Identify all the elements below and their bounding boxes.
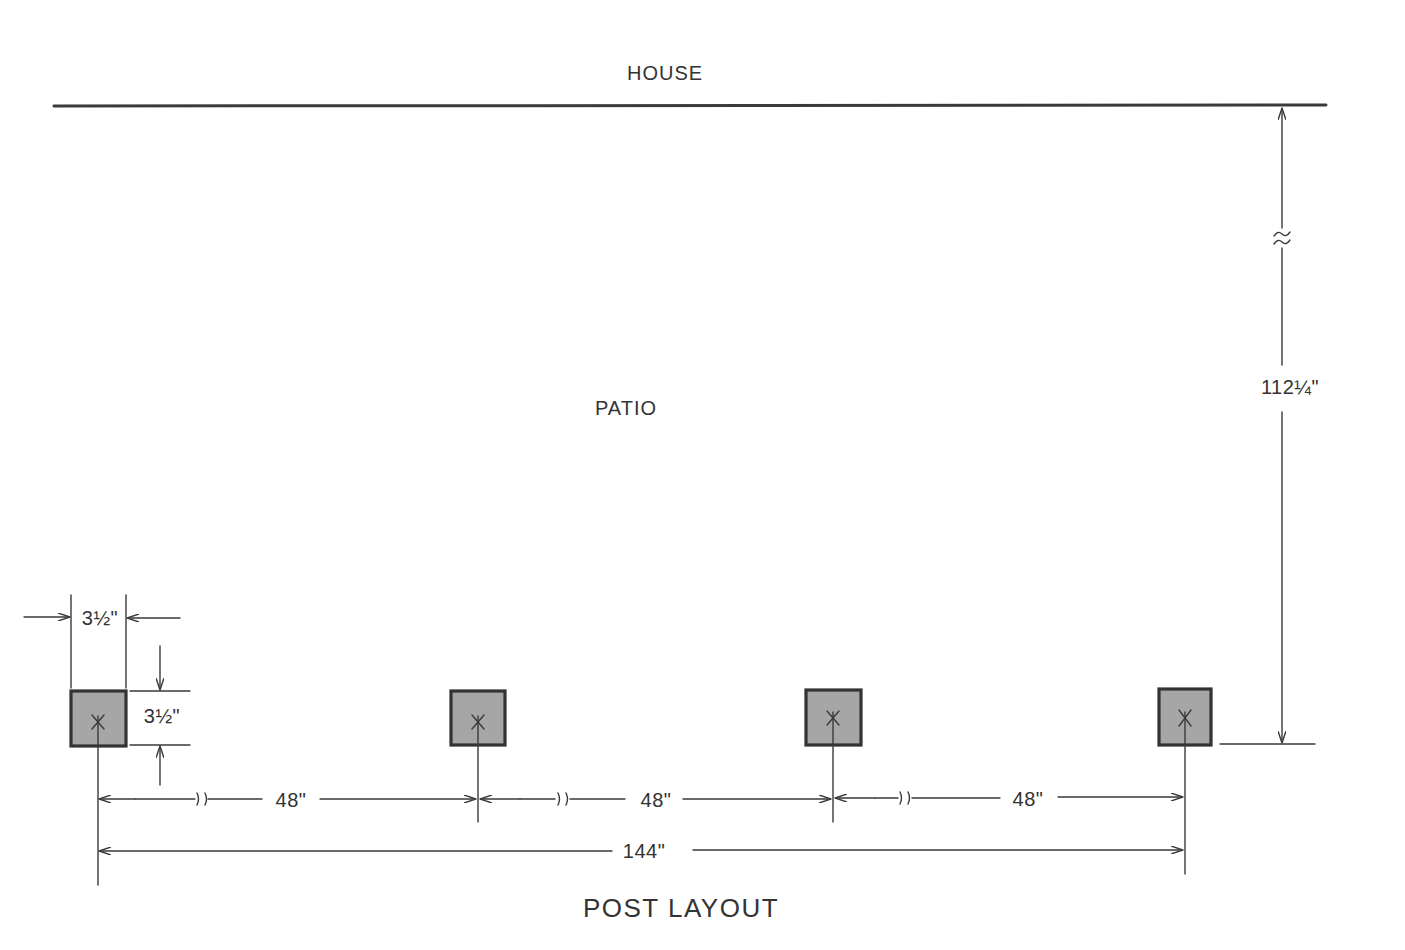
post-layout-diagram: HOUSE PATIO 112¼" 3½" 3½" (0, 0, 1405, 950)
spacing-dimension-3 (835, 792, 1183, 804)
break-mark-icon (197, 793, 207, 805)
overall-value: 144" (623, 840, 665, 862)
house-to-posts-value: 112¼" (1261, 376, 1319, 398)
post-2 (451, 691, 505, 822)
patio-label: PATIO (595, 397, 657, 419)
post-width-value: 3½" (82, 607, 118, 629)
post-1 (71, 691, 126, 885)
break-mark-icon (1274, 232, 1290, 236)
break-mark-icon (558, 793, 568, 805)
house-label: HOUSE (627, 62, 703, 84)
post-4 (1159, 689, 1211, 874)
post-3 (806, 690, 861, 822)
spacing-1-value: 48" (276, 789, 307, 811)
break-mark-icon (1274, 240, 1290, 244)
post-depth-value: 3½" (144, 705, 180, 727)
house-to-posts-dimension (1220, 108, 1315, 744)
house-wall-line (54, 105, 1326, 106)
break-mark-icon (900, 792, 910, 804)
spacing-3-value: 48" (1013, 788, 1044, 810)
spacing-2-value: 48" (641, 789, 672, 811)
diagram-title: POST LAYOUT (583, 893, 779, 923)
